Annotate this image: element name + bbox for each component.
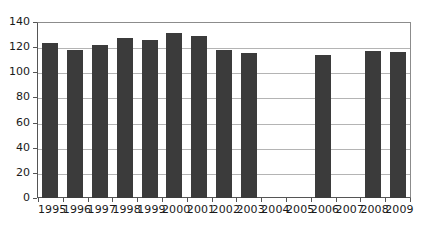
bar-1998[interactable] <box>112 22 137 198</box>
x-tick-mark <box>336 198 337 202</box>
bar-2008[interactable] <box>360 22 385 198</box>
x-label-2001: 2001 <box>187 203 212 217</box>
x-label-1998: 1998 <box>112 203 137 217</box>
bar-rect[interactable] <box>92 45 108 198</box>
bar-1997[interactable] <box>88 22 113 198</box>
y-tick-mark <box>33 148 37 149</box>
x-label-2002: 2002 <box>212 203 237 217</box>
y-tick-label: 80 <box>16 91 30 102</box>
y-tick-label: 100 <box>9 66 30 77</box>
bar-1995[interactable] <box>38 22 63 198</box>
x-tick-mark <box>38 198 39 202</box>
y-tick-label: 60 <box>16 117 30 128</box>
x-label-2005: 2005 <box>286 203 311 217</box>
x-tick-mark <box>286 198 287 202</box>
x-tick-mark <box>236 198 237 202</box>
x-tick-mark <box>162 198 163 202</box>
x-label-1997: 1997 <box>88 203 113 217</box>
bar-2003[interactable] <box>236 22 261 198</box>
x-tick-mark <box>187 198 188 202</box>
x-axis-labels: 1995199619971998199920002001200220032004… <box>38 203 410 223</box>
x-tick-mark <box>360 198 361 202</box>
x-label-2000: 2000 <box>162 203 187 217</box>
bar-2005[interactable] <box>286 22 311 198</box>
bar-rect[interactable] <box>42 43 58 198</box>
x-tick-mark <box>261 198 262 202</box>
x-tick-mark <box>88 198 89 202</box>
bar-rect[interactable] <box>191 36 207 198</box>
bar-2009[interactable] <box>385 22 410 198</box>
bar-rect[interactable] <box>365 51 381 198</box>
bar-rect[interactable] <box>166 33 182 198</box>
x-label-2004: 2004 <box>261 203 286 217</box>
bar-rect[interactable] <box>216 50 232 198</box>
x-tick-mark <box>137 198 138 202</box>
bars-layer <box>38 22 410 198</box>
x-label-2006: 2006 <box>311 203 336 217</box>
x-tick-mark <box>311 198 312 202</box>
x-label-2009: 2009 <box>385 203 410 217</box>
x-tick-mark <box>410 198 411 202</box>
bar-2004[interactable] <box>261 22 286 198</box>
bar-rect[interactable] <box>142 40 158 198</box>
x-label-1999: 1999 <box>137 203 162 217</box>
bar-rect[interactable] <box>241 53 257 198</box>
y-tick-label: 40 <box>16 142 30 153</box>
x-tick-mark <box>112 198 113 202</box>
bar-2006[interactable] <box>311 22 336 198</box>
x-label-1995: 1995 <box>38 203 63 217</box>
bar-rect[interactable] <box>67 50 83 198</box>
bar-chart: 140 120 100 80 60 40 20 0 <box>0 0 428 229</box>
bar-1999[interactable] <box>137 22 162 198</box>
bar-2000[interactable] <box>162 22 187 198</box>
y-tick-mark <box>33 97 37 98</box>
y-tick-mark <box>33 47 37 48</box>
y-tick-label: 120 <box>9 41 30 52</box>
x-label-2003: 2003 <box>236 203 261 217</box>
y-tick-label: 140 <box>9 16 30 27</box>
bar-rect[interactable] <box>117 38 133 198</box>
y-tick-mark <box>33 22 37 23</box>
x-label-1996: 1996 <box>63 203 88 217</box>
x-label-2007: 2007 <box>336 203 361 217</box>
bar-2001[interactable] <box>187 22 212 198</box>
x-tick-mark <box>385 198 386 202</box>
y-tick-mark <box>33 72 37 73</box>
y-tick-mark <box>33 198 37 199</box>
x-label-2008: 2008 <box>360 203 385 217</box>
bar-rect[interactable] <box>390 52 406 198</box>
y-tick-mark <box>33 123 37 124</box>
y-axis: 140 120 100 80 60 40 20 0 <box>0 22 37 198</box>
bar-2002[interactable] <box>212 22 237 198</box>
bar-2007[interactable] <box>336 22 361 198</box>
x-tick-mark <box>63 198 64 202</box>
bar-1996[interactable] <box>63 22 88 198</box>
y-tick-label: 0 <box>23 192 30 203</box>
bar-rect[interactable] <box>315 55 331 198</box>
x-tick-mark <box>212 198 213 202</box>
y-tick-mark <box>33 173 37 174</box>
y-tick-label: 20 <box>16 167 30 178</box>
